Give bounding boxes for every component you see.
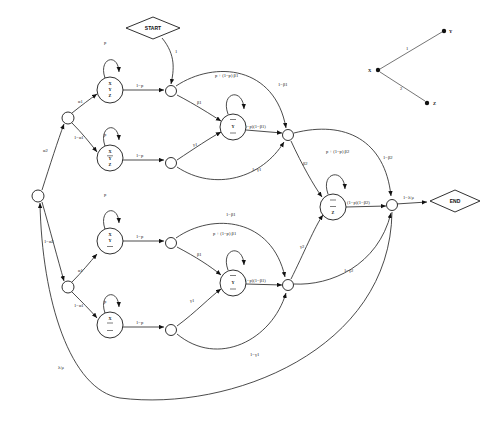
edge-one-minus-gamma1-top bbox=[177, 142, 284, 180]
edge-self-y-top bbox=[226, 95, 244, 114]
node-state-xyzbar-bot[interactable]: X Y bbox=[97, 228, 123, 254]
node-split-alpha1-top[interactable] bbox=[62, 112, 74, 124]
edge-y-out-bot bbox=[246, 284, 282, 285]
edge-label-one-minus-beta2: 1−β2 bbox=[383, 155, 393, 160]
inset-edge-x-y bbox=[380, 32, 442, 69]
svg-text:X: X bbox=[108, 149, 111, 154]
edge-z-out bbox=[346, 206, 386, 207]
edge-label-gamma1-bot: γ1 bbox=[190, 298, 195, 303]
node-merge-bot[interactable] bbox=[166, 238, 177, 249]
inset-node-x[interactable] bbox=[376, 68, 380, 72]
svg-text:Z: Z bbox=[332, 210, 335, 215]
node-join-top[interactable] bbox=[283, 130, 294, 141]
edge-label-self-p-4: p bbox=[104, 299, 107, 304]
inset-label-z: Z bbox=[433, 101, 436, 106]
edge-alpha1-top bbox=[72, 94, 97, 113]
node-state-xbar-y-zbar-bot[interactable]: Y bbox=[220, 270, 246, 296]
edge-label-one-minus-lambda-mu: 1−λ/μ bbox=[403, 195, 414, 200]
edge-beta2-top bbox=[291, 141, 322, 197]
edge-self-p-1 bbox=[104, 60, 119, 78]
svg-text:Y: Y bbox=[108, 238, 111, 243]
edge-label-start: 1 bbox=[175, 49, 178, 54]
edge-label-self-p-2: p bbox=[104, 132, 107, 137]
edge-self-z bbox=[326, 175, 345, 194]
edge-label-alpha2: α2 bbox=[43, 148, 48, 153]
svg-text:X: X bbox=[108, 232, 111, 237]
edge-label-one-minus-p-4: 1−p bbox=[136, 320, 144, 325]
edge-label-one-minus-alpha1-bot: 1−α1 bbox=[74, 303, 84, 308]
edge-label-beta1-bot: β1 bbox=[197, 252, 202, 257]
node-join-right[interactable] bbox=[387, 200, 398, 211]
svg-text:Z: Z bbox=[109, 162, 112, 167]
svg-text:Y: Y bbox=[231, 280, 234, 285]
inset-variable-dependency-graph: X Y Z 1 2 bbox=[368, 29, 453, 106]
node-split-alpha1-bot[interactable] bbox=[62, 281, 74, 293]
edge-label-self-p-1: p bbox=[104, 40, 107, 45]
edge-label-lambda-mu: λ/μ bbox=[58, 365, 65, 370]
node-state-x-ybar-zbar-bot[interactable]: X bbox=[97, 312, 123, 338]
node-state-x-ybar-z-top[interactable]: X Y Z bbox=[97, 145, 123, 171]
edge-label-gamma2-bot: γ2 bbox=[300, 244, 305, 249]
node-state-xbar-ybar-z-right[interactable]: Z bbox=[320, 194, 346, 220]
edge-gamma1-bot bbox=[177, 289, 221, 326]
edge-label-gamma1-top: γ1 bbox=[193, 142, 198, 147]
edge-label-one-minus-gamma1-top: 1−γ1 bbox=[252, 167, 262, 172]
edge-self-p-3 bbox=[104, 211, 119, 229]
edge-one-minus-lambda-mu bbox=[396, 202, 427, 204]
state-transition-diagram: START END 1 α2 1−α2 α1 1−α1 p 1−p p 1−p … bbox=[0, 0, 491, 438]
node-state-xbar-y-zbar-top[interactable]: Y bbox=[220, 114, 246, 140]
edge-alpha1-bot bbox=[72, 254, 97, 282]
edge-one-minus-beta2 bbox=[294, 129, 391, 196]
edge-label-alpha1-bot: α1 bbox=[78, 268, 83, 273]
inset-label-x: X bbox=[368, 68, 372, 73]
svg-text:Z: Z bbox=[109, 93, 112, 98]
edge-label-one-minus-beta1-bot: 1−β1 bbox=[226, 212, 236, 217]
edge-label-z-out: (1−p)(1−β2) bbox=[347, 200, 370, 205]
node-merge-top-2[interactable] bbox=[166, 158, 177, 169]
svg-text:X: X bbox=[108, 81, 111, 86]
edge-label-self-y-bot: p + (1−p) β1 bbox=[213, 231, 237, 236]
edge-label-one-minus-alpha1-top: 1−α1 bbox=[74, 135, 84, 140]
edge-one-minus-gamma2 bbox=[294, 213, 391, 284]
end-label: END bbox=[450, 198, 461, 204]
edge-start-to-merge-top bbox=[162, 38, 173, 84]
node-merge-top[interactable] bbox=[166, 86, 177, 97]
edge-y-out-top bbox=[246, 130, 282, 133]
end-terminal: END bbox=[430, 190, 480, 212]
edge-label-self-p-3: p bbox=[104, 192, 107, 197]
edge-label-beta1-top: β1 bbox=[197, 100, 202, 105]
svg-text:Y: Y bbox=[108, 87, 111, 92]
edge-label-one-minus-gamma1-bot: 1−γ1 bbox=[250, 352, 260, 357]
inset-node-z[interactable] bbox=[425, 101, 429, 105]
inset-edge-label-1: 1 bbox=[406, 46, 409, 51]
edge-label-one-minus-gamma2: 1−γ2 bbox=[344, 268, 354, 273]
edge-label-y-out-top: (1−p)(1−β1) bbox=[243, 124, 266, 129]
edge-gamma1-top bbox=[177, 132, 221, 160]
inset-node-y[interactable] bbox=[442, 29, 446, 33]
node-join-bot[interactable] bbox=[283, 280, 294, 291]
edge-gamma2-bot bbox=[291, 215, 323, 279]
edge-label-alpha1-top: α1 bbox=[78, 99, 83, 104]
edge-label-one-minus-beta1-top: 1−β1 bbox=[278, 82, 288, 87]
edge-label-y-out-bot: (1−p)(1−β1) bbox=[243, 278, 266, 283]
start-label: START bbox=[145, 25, 161, 31]
edge-label-one-minus-p-2: 1−p bbox=[136, 153, 144, 158]
inset-label-y: Y bbox=[449, 29, 453, 34]
inset-edge-x-z bbox=[380, 72, 425, 101]
edge-label-beta2-top: β2 bbox=[303, 161, 308, 166]
node-merge-bot-2[interactable] bbox=[166, 325, 177, 336]
svg-text:X: X bbox=[108, 316, 111, 321]
start-terminal: START bbox=[126, 17, 180, 39]
edge-label-self-y-top: p + (1−p) β1 bbox=[215, 73, 239, 78]
edge-label-one-minus-p-3: 1−p bbox=[136, 234, 144, 239]
node-split-alpha2[interactable] bbox=[32, 190, 44, 202]
edge-self-y-bot bbox=[226, 251, 244, 270]
node-state-xyz-top[interactable]: X Y Z bbox=[97, 77, 123, 103]
edge-beta1-top bbox=[177, 95, 221, 121]
edge-label-one-minus-alpha2: 1−α2 bbox=[44, 239, 54, 244]
edge-label-one-minus-p-1: 1−p bbox=[136, 83, 144, 88]
svg-text:Y: Y bbox=[108, 156, 111, 161]
edge-label-self-z: p + (1−p) β2 bbox=[326, 149, 350, 154]
edge-alpha2 bbox=[42, 124, 64, 190]
svg-text:Y: Y bbox=[231, 124, 234, 129]
